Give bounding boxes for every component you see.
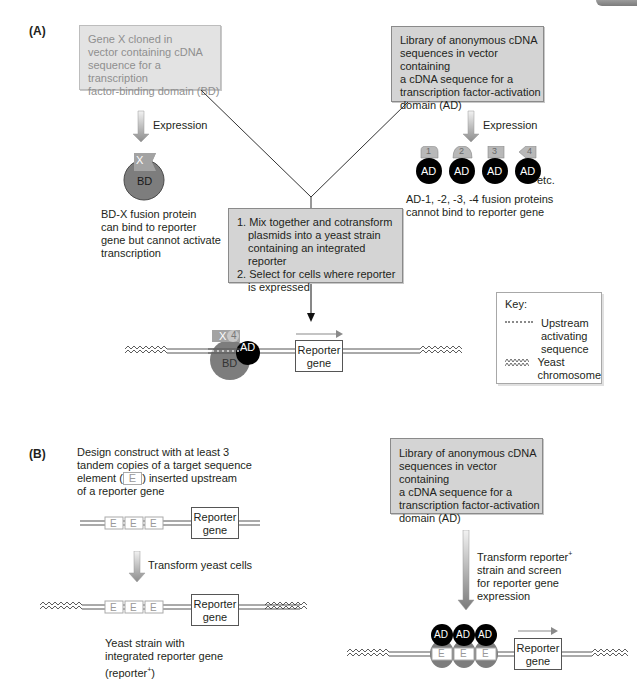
- superscript-plus: +: [568, 550, 572, 557]
- construct-b1: [70, 505, 280, 541]
- ad-tag-2: 2: [459, 146, 464, 156]
- strain-line: Yeast strain with: [105, 637, 223, 650]
- strain-line: (reporter+): [105, 663, 223, 680]
- complex-bd: BD: [222, 357, 237, 369]
- element-e: E: [110, 602, 117, 613]
- transform-arrow: [128, 551, 148, 585]
- reporter-line: Reporter: [515, 642, 561, 655]
- ad-label-1: AD: [421, 165, 436, 177]
- screen-arrow: [457, 530, 477, 612]
- reporter-line: gene: [192, 611, 238, 624]
- ad-caption-line: AD-1, -2, -3, -4 fusion proteins: [406, 193, 553, 206]
- complex-ad: AD: [240, 341, 255, 353]
- design-text-part: element (: [77, 472, 123, 484]
- ad-caption-line: cannot bind to reporter gene: [406, 206, 553, 219]
- bd-caption-line: gene but cannot activate: [101, 234, 221, 247]
- element-e: E: [438, 648, 445, 659]
- key-chromosome-line: Yeast: [537, 356, 601, 369]
- screen-line: Transform reporter+: [477, 547, 572, 564]
- bd-caption-line: can bind to reporter: [101, 221, 221, 234]
- reporter-gene-b1: Reporter gene: [191, 507, 239, 539]
- element-e: E: [150, 518, 157, 529]
- transform-yeast-label: Transform yeast cells: [148, 559, 252, 572]
- expression-label-right: Expression: [483, 119, 537, 132]
- bound-ad-label: AD: [456, 629, 470, 640]
- reporter-gene-b2: Reporter gene: [191, 594, 239, 626]
- bd-caption-line: transcription: [101, 247, 221, 260]
- key-uas-line: Upstream: [541, 317, 589, 330]
- panel-b-label: (B): [29, 447, 46, 461]
- bd-x-tag: X: [136, 154, 143, 166]
- element-e: E: [460, 648, 467, 659]
- bd-label: BD: [137, 175, 152, 187]
- strain-text: (reporter: [105, 667, 147, 679]
- bound-ad-label: AD: [478, 629, 492, 640]
- reporter-line: gene: [515, 655, 561, 668]
- element-e: E: [150, 602, 157, 613]
- screen-line: for reporter gene: [477, 577, 572, 590]
- reporter-line: Reporter: [192, 511, 238, 524]
- ad-tag-4: 4: [527, 146, 532, 156]
- steps-box: 1. Mix together and cotransform plasmids…: [228, 208, 403, 283]
- complex-ad-tag: 4: [231, 330, 237, 341]
- element-e: E: [130, 518, 137, 529]
- ad-caption: AD-1, -2, -3, -4 fusion proteins cannot …: [406, 193, 553, 219]
- element-inline-box: E: [123, 472, 142, 485]
- reporter-gene-a: Reporter gene: [295, 340, 343, 372]
- bd-caption: BD-X fusion protein can bind to reporter…: [101, 208, 221, 260]
- library-line: Library of anonymous cDNA: [399, 447, 542, 460]
- library-box-b: Library of anonymous cDNA sequences in v…: [390, 438, 543, 514]
- element-e: E: [130, 602, 137, 613]
- key-title: Key:: [505, 298, 601, 311]
- bound-ad-label: AD: [434, 629, 448, 640]
- screen-label: Transform reporter+ strain and screen fo…: [477, 547, 572, 603]
- strain-text: ): [151, 667, 155, 679]
- ad-tag-3: 3: [492, 146, 497, 156]
- library-line: sequences in vector containing: [399, 460, 542, 486]
- design-line: tandem copies of a target sequence: [77, 459, 252, 472]
- element-e: E: [110, 518, 117, 529]
- key-uas-line: sequence: [541, 343, 589, 356]
- screen-text: Transform reporter: [477, 551, 568, 563]
- strain-line: integrated reporter gene: [105, 650, 223, 663]
- ad-etc: etc.: [537, 174, 555, 187]
- ad-label-3: AD: [487, 165, 502, 177]
- reporter-line: Reporter: [296, 344, 342, 357]
- ad-label-4: AD: [520, 165, 535, 177]
- expression-label-left: Expression: [153, 119, 207, 132]
- uas-dots-icon: [505, 321, 533, 329]
- key-uas-line: activating: [541, 330, 589, 343]
- reporter-gene-b3: Reporter gene: [514, 638, 562, 670]
- strain-caption: Yeast strain with integrated reporter ge…: [105, 637, 223, 680]
- complex-x-tag: X: [219, 330, 226, 342]
- key-box: Key: Upstream activating sequence Yeast …: [496, 292, 602, 384]
- step-line: 2. Select for cells where reporter: [237, 268, 402, 281]
- element-e: E: [482, 648, 489, 659]
- step-line: containing an integrated reporter: [237, 242, 402, 268]
- ad-label-2: AD: [454, 165, 469, 177]
- screen-line: expression: [477, 590, 572, 603]
- library-line: a cDNA sequence for a: [399, 486, 542, 499]
- library-line: domain (AD): [399, 512, 542, 525]
- design-line: of a reporter gene: [77, 485, 252, 498]
- design-line: element (E) inserted upstream: [77, 472, 252, 485]
- screen-line: strain and screen: [477, 564, 572, 577]
- reporter-line: Reporter: [192, 598, 238, 611]
- step-line: plasmids into a yeast strain: [237, 229, 402, 242]
- ad-tag-1: 1: [426, 146, 431, 156]
- step-line: 1. Mix together and cotransform: [237, 216, 402, 229]
- key-chromosome-line: chromosome: [537, 369, 601, 382]
- design-line: Design construct with at least 3: [77, 446, 252, 459]
- chromosome-b2: [30, 595, 320, 625]
- design-text-part: ) inserted upstream: [142, 472, 237, 484]
- step-line: is expressed: [237, 281, 402, 294]
- library-line: transcription factor-activation: [399, 499, 542, 512]
- reporter-line: gene: [192, 524, 238, 537]
- design-text: Design construct with at least 3 tandem …: [77, 446, 252, 498]
- bd-caption-line: BD-X fusion protein: [101, 208, 221, 221]
- chromosome-zigzag-icon: [505, 358, 529, 368]
- reporter-line: gene: [296, 357, 342, 370]
